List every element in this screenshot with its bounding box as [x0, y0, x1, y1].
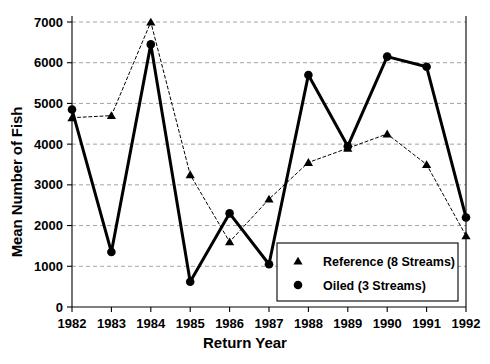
data-point-triangle [186, 170, 195, 178]
y-tick-label: 1000 [34, 259, 63, 274]
y-tick-label: 6000 [34, 55, 63, 70]
data-point-circle [383, 52, 392, 61]
data-point-triangle [383, 130, 392, 138]
data-point-circle [304, 71, 313, 80]
data-point-circle [265, 260, 274, 269]
y-tick-label: 2000 [34, 218, 63, 233]
x-tick-label: 1991 [412, 316, 441, 331]
x-tick-label: 1982 [58, 316, 87, 331]
x-tick-labels-group: 1982198319841985198619871988198919901991… [58, 316, 481, 331]
x-tick-label: 1985 [176, 316, 205, 331]
y-tick-labels-group: 01000200030004000500060007000 [34, 15, 63, 315]
data-point-circle [462, 213, 471, 222]
y-tick-label: 0 [56, 300, 63, 315]
x-tick-label: 1986 [215, 316, 244, 331]
data-point-triangle [146, 18, 155, 26]
data-point-circle [68, 105, 77, 114]
data-point-circle [225, 209, 234, 218]
data-point-circle [147, 40, 156, 49]
x-tick-label: 1988 [294, 316, 323, 331]
data-point-circle [186, 277, 195, 286]
y-tick-label: 7000 [34, 15, 63, 30]
y-tick-label: 4000 [34, 137, 63, 152]
y-tick-label: 3000 [34, 177, 63, 192]
legend-label: Oiled (3 Streams) [323, 279, 426, 293]
series-line [72, 22, 466, 242]
data-point-triangle [107, 111, 116, 119]
data-point-triangle [461, 231, 470, 239]
chart-figure: Mean Number of Fish 01000200030004000500… [0, 0, 490, 364]
legend-label: Reference (8 Streams) [323, 255, 455, 269]
x-tick-label: 1990 [373, 316, 402, 331]
x-tick-label: 1987 [255, 316, 284, 331]
x-tick-label: 1984 [136, 316, 166, 331]
x-tick-label: 1989 [333, 316, 362, 331]
x-tick-marks-group [72, 307, 466, 312]
data-point-circle [107, 248, 116, 257]
y-tick-label: 5000 [34, 96, 63, 111]
x-tick-label: 1983 [97, 316, 126, 331]
chart-plot-area: 01000200030004000500060007000 1982198319… [0, 0, 490, 364]
x-tick-label: 1992 [452, 316, 481, 331]
legend-marker-circle [294, 281, 303, 290]
series-reference [67, 18, 470, 246]
data-point-triangle [304, 158, 313, 166]
chart-legend: Reference (8 Streams)Oiled (3 Streams) [277, 243, 458, 301]
data-point-circle [422, 62, 431, 71]
data-point-triangle [422, 160, 431, 168]
data-point-circle [344, 142, 353, 151]
x-axis-label: Return Year [0, 334, 490, 351]
y-tick-marks-group [67, 22, 72, 307]
